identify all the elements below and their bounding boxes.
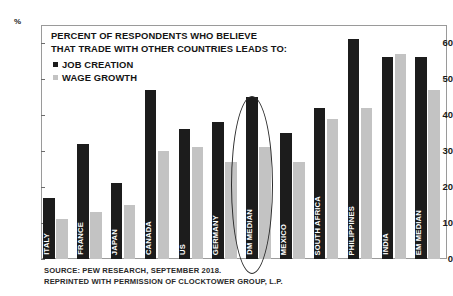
bar-philippines-job-creation: PHILIPPINES [348, 39, 360, 259]
bar-france-wage-growth [90, 212, 102, 259]
category-label-germany: GERMANY [212, 215, 220, 255]
category-label-canada: CANADA [145, 221, 153, 255]
category-label-em-median: EM MEDIAN [415, 210, 423, 255]
bar-canada-job-creation: CANADA [145, 90, 157, 259]
category-label-india: INDIA [382, 233, 390, 255]
bar-south-africa-wage-growth [327, 119, 339, 259]
category-label-us: US [179, 244, 187, 255]
bar-mexico-job-creation: MEXICO [280, 133, 292, 259]
category-label-japan: JAPAN [111, 229, 119, 255]
source-note-line-2: REPRINTED WITH PERMISSION OF CLOCKTOWER … [44, 277, 283, 288]
bar-canada-wage-growth [158, 151, 170, 259]
category-label-mexico: MEXICO [280, 224, 288, 255]
category-label-philippines: PHILIPPINES [348, 206, 356, 255]
bar-italy-wage-growth [56, 219, 68, 259]
category-label-france: FRANCE [77, 222, 85, 255]
bar-japan-job-creation: JAPAN [111, 183, 123, 259]
y-axis-tick-mark-0 [41, 259, 45, 260]
chart-figure: % 0102030405060 ITALYFRANCEJAPANCANADAUS… [0, 0, 453, 296]
source-note: SOURCE: PEW RESEARCH, SEPTEMBER 2018. RE… [44, 266, 283, 287]
bar-germany-job-creation: GERMANY [212, 122, 224, 259]
legend-label-wage-growth: WAGE GROWTH [62, 71, 137, 84]
bar-india-job-creation: INDIA [382, 57, 394, 259]
category-label-dm-median: DM MEDIAN [246, 209, 254, 255]
bar-south-africa-job-creation: SOUTH AFRICA [314, 108, 326, 259]
chart-title-line-2: THAT TRADE WITH OTHER COUNTRIES LEADS TO… [51, 43, 287, 56]
legend-item-wage-growth: WAGE GROWTH [53, 71, 137, 84]
bar-em-median-job-creation: EM MEDIAN [415, 57, 427, 259]
legend-label-job-creation: JOB CREATION [62, 58, 133, 71]
bar-mexico-wage-growth [293, 162, 305, 259]
bar-dm-median-wage-growth [259, 147, 271, 259]
bar-india-wage-growth [395, 54, 407, 259]
category-label-italy: ITALY [43, 233, 51, 255]
legend-swatch-icon-wage-growth [53, 75, 58, 80]
category-label-south-africa: SOUTH AFRICA [314, 196, 322, 256]
chart-title-line-1: PERCENT OF RESPONDENTS WHO BELIEVE [51, 30, 287, 43]
legend-item-job-creation: JOB CREATION [53, 58, 137, 71]
bar-germany-wage-growth [225, 162, 237, 259]
bar-dm-median-job-creation: DM MEDIAN [246, 97, 258, 259]
chart-title: PERCENT OF RESPONDENTS WHO BELIEVE THAT … [51, 30, 287, 55]
bar-philippines-wage-growth [361, 108, 373, 259]
bar-us-wage-growth [192, 147, 204, 259]
source-note-line-1: SOURCE: PEW RESEARCH, SEPTEMBER 2018. [44, 266, 283, 277]
bar-france-job-creation: FRANCE [77, 144, 89, 259]
bar-japan-wage-growth [124, 205, 136, 259]
bar-em-median-wage-growth [428, 90, 440, 259]
bar-us-job-creation: US [179, 129, 191, 259]
y-axis-unit-label: % [14, 17, 21, 26]
chart-legend: JOB CREATION WAGE GROWTH [53, 58, 137, 84]
legend-swatch-icon-job-creation [53, 62, 58, 67]
bar-italy-job-creation: ITALY [43, 198, 55, 259]
